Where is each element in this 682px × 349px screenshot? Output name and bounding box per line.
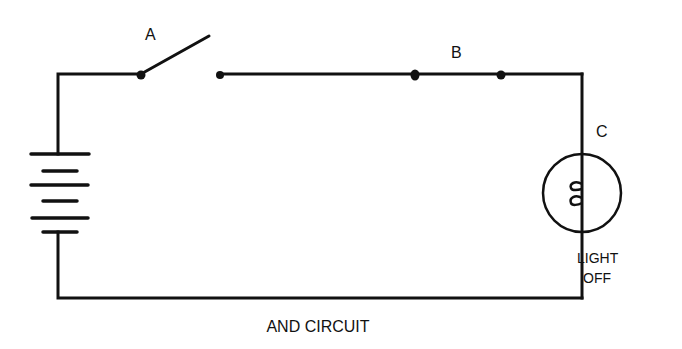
wire-left-top <box>58 74 141 154</box>
diagram-caption: AND CIRCUIT <box>0 319 636 335</box>
battery-icon <box>31 154 89 232</box>
switch-label: A <box>145 27 156 43</box>
wire-bottom <box>58 232 582 298</box>
lamp-label: C <box>596 124 608 140</box>
lamp-state-line1: LIGHT <box>577 251 617 265</box>
junction-label: B <box>451 45 462 61</box>
circuit-diagram <box>0 0 682 349</box>
switch-icon <box>137 71 225 80</box>
lamp-state-line2: OFF <box>577 271 617 285</box>
